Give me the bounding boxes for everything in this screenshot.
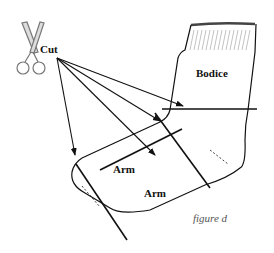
arm-lower-label: Arm — [144, 187, 166, 199]
figure-caption: figure d — [193, 212, 228, 224]
arm-upper-label: Arm — [113, 163, 135, 175]
bodice-label: Bodice — [196, 67, 228, 79]
sock-cutting-diagram: Cut Bodice Arm Arm figure d — [0, 0, 274, 253]
sock-outline — [72, 23, 256, 212]
cut-label: Cut — [40, 43, 58, 55]
